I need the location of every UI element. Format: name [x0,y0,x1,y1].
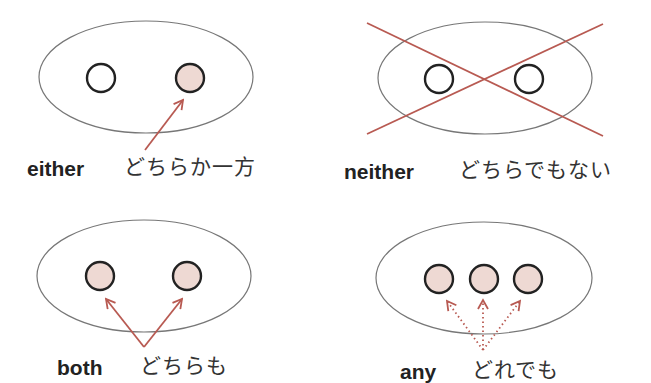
item-circle-selected [173,262,201,290]
panel-both [37,220,251,347]
item-circle-selected [176,64,204,92]
set-ellipse [37,220,251,332]
word-any: any [400,361,436,382]
arrow-icon [106,299,144,347]
meaning-neither: どちらでもない [459,160,612,181]
dotted-arrow-icon [483,301,520,350]
meaning-any: どれでも [472,360,559,381]
item-circle-empty [425,65,453,93]
word-either: either [27,158,84,179]
arrow-icon [144,299,182,347]
panel-either [39,21,253,150]
panel-neither [367,22,603,136]
panel-any [376,222,592,350]
item-circle-selected [514,265,542,293]
item-circle-selected [470,265,498,293]
item-circle-selected [86,262,114,290]
arrow-icon [145,100,183,150]
word-neither: neither [344,161,414,182]
word-both: both [57,357,102,378]
set-ellipse [378,22,592,134]
meaning-both: どちらも [140,356,228,377]
item-circle-empty [87,64,115,92]
item-circle-selected [425,265,453,293]
set-ellipse [39,21,253,133]
dotted-arrow-icon [447,301,483,350]
meaning-either: どちらか一方 [124,157,256,178]
item-circle-empty [515,65,543,93]
